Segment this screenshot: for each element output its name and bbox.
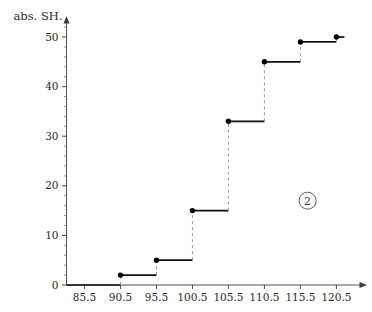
data-point-marker — [226, 119, 231, 124]
y-axis-title: abs. SH. — [14, 9, 63, 23]
x-axis-tick-label: 85.5 — [73, 291, 96, 303]
y-axis-tick-label: 50 — [45, 31, 58, 43]
x-axis-arrow-icon — [360, 282, 368, 288]
data-point-marker — [334, 34, 339, 39]
data-point-marker — [190, 208, 195, 213]
x-axis-tick-label: 105.5 — [213, 291, 243, 303]
y-axis-tick-label: 40 — [45, 80, 58, 92]
x-axis-tick-label: 90.5 — [109, 291, 132, 303]
data-point-marker — [298, 39, 303, 44]
y-axis-arrow-icon — [64, 16, 70, 24]
data-point-marker — [118, 272, 123, 277]
data-point-marker — [154, 258, 159, 263]
annotation-label: 2 — [304, 195, 311, 208]
x-axis-tick-label: 110.5 — [249, 291, 279, 303]
y-axis-tick-label: 20 — [45, 179, 58, 191]
step-chart-figure: abs. SH.0102030405085.590.595.5100.5105.… — [0, 0, 372, 312]
y-axis-tick-label: 0 — [52, 279, 59, 291]
chart-canvas: abs. SH.0102030405085.590.595.5100.5105.… — [0, 0, 372, 312]
y-axis-tick-label: 30 — [45, 130, 58, 142]
y-axis-tick-label: 10 — [45, 229, 58, 241]
x-axis-tick-label: 120.5 — [321, 291, 351, 303]
data-point-marker — [262, 59, 267, 64]
x-axis-tick-label: 95.5 — [145, 291, 168, 303]
x-axis-tick-label: 100.5 — [177, 291, 207, 303]
x-axis-tick-label: 115.5 — [285, 291, 315, 303]
